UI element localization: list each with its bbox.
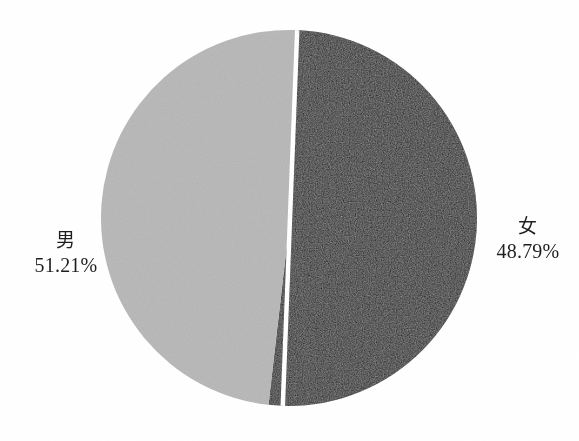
pie-label-male: 男 51.21%: [10, 230, 122, 277]
pie-label-male-value: 51.21%: [10, 254, 122, 276]
pie-slice-male[interactable]: [269, 30, 478, 406]
pie-slice-female[interactable]: [101, 30, 297, 405]
pie-label-male-name: 男: [10, 230, 122, 251]
pie-label-female: 女 48.79%: [472, 216, 579, 263]
pie-label-female-name: 女: [472, 216, 579, 237]
pie-label-female-value: 48.79%: [472, 240, 579, 262]
pie-chart: 男 51.21% 女 48.79%: [0, 0, 579, 441]
